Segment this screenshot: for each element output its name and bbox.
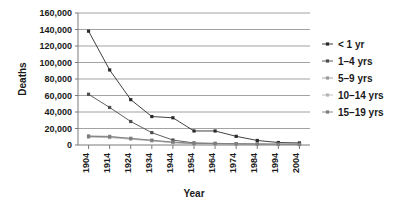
data-point-marker bbox=[87, 93, 90, 96]
y-axis-title: Deaths bbox=[17, 62, 28, 96]
data-point-marker bbox=[213, 142, 216, 145]
data-point-marker bbox=[108, 68, 111, 71]
data-point-marker bbox=[235, 142, 238, 145]
data-point-marker bbox=[87, 135, 90, 138]
data-point-marker bbox=[150, 115, 153, 118]
data-point-marker bbox=[213, 129, 216, 132]
y-tick-label: 40,000 bbox=[44, 107, 72, 117]
data-point-marker bbox=[171, 116, 174, 119]
x-axis-title: Year bbox=[183, 188, 204, 199]
legend-label: 10–14 yrs bbox=[338, 90, 384, 101]
y-tick-label: 120,000 bbox=[39, 41, 72, 51]
data-point-marker bbox=[192, 129, 195, 132]
data-point-marker bbox=[192, 142, 195, 145]
legend-marker bbox=[326, 42, 329, 45]
line-chart: 020,00040,00060,00080,000100,000120,0001… bbox=[0, 0, 407, 204]
legend-marker bbox=[326, 76, 329, 79]
x-tick-label: 1914 bbox=[102, 153, 112, 173]
x-tick-label: 1994 bbox=[270, 153, 280, 173]
legend-marker bbox=[326, 93, 329, 96]
x-axis: 1904191419241934194419541964197419841994… bbox=[81, 145, 302, 173]
y-tick-label: 140,000 bbox=[39, 25, 72, 35]
data-point-marker bbox=[129, 137, 132, 140]
legend-item-2[interactable]: 1–4 yrs bbox=[322, 56, 373, 67]
x-tick-label: 1964 bbox=[207, 153, 217, 173]
y-tick-label: 100,000 bbox=[39, 58, 72, 68]
x-tick-label: 1974 bbox=[228, 153, 238, 173]
legend-marker bbox=[326, 59, 329, 62]
legend-marker bbox=[326, 110, 329, 113]
x-tick-label: 1954 bbox=[186, 153, 196, 173]
data-point-marker bbox=[256, 143, 259, 146]
series-1 bbox=[87, 30, 301, 145]
legend-label: < 1 yr bbox=[338, 39, 365, 50]
data-point-marker bbox=[298, 143, 301, 146]
data-point-marker bbox=[256, 139, 259, 142]
series-line bbox=[89, 31, 300, 143]
legend-label: 5–9 yrs bbox=[338, 73, 373, 84]
data-point-marker bbox=[235, 135, 238, 138]
legend-item-1[interactable]: < 1 yr bbox=[322, 39, 365, 50]
y-tick-label: 60,000 bbox=[44, 91, 72, 101]
series-line bbox=[89, 94, 300, 144]
y-tick-label: 20,000 bbox=[44, 124, 72, 134]
data-point-marker bbox=[129, 98, 132, 101]
data-point-marker bbox=[108, 135, 111, 138]
x-tick-label: 1984 bbox=[249, 153, 259, 173]
chart-canvas: 020,00040,00060,00080,000100,000120,0001… bbox=[0, 0, 407, 204]
x-tick-label: 1904 bbox=[81, 153, 91, 173]
legend-item-4[interactable]: 10–14 yrs bbox=[322, 90, 384, 101]
data-point-marker bbox=[87, 30, 90, 33]
legend-label: 15–19 yrs bbox=[338, 107, 384, 118]
data-point-marker bbox=[150, 139, 153, 142]
gridlines: 020,00040,00060,00080,000100,000120,0001… bbox=[39, 8, 310, 150]
x-tick-label: 1924 bbox=[123, 153, 133, 173]
y-tick-label: 160,000 bbox=[39, 8, 72, 18]
x-tick-label: 1944 bbox=[165, 153, 175, 173]
y-tick-label: 80,000 bbox=[44, 74, 72, 84]
series-5 bbox=[87, 135, 301, 146]
legend-item-3[interactable]: 5–9 yrs bbox=[322, 73, 373, 84]
data-point-marker bbox=[108, 106, 111, 109]
legend: < 1 yr1–4 yrs5–9 yrs10–14 yrs15–19 yrs bbox=[322, 39, 384, 118]
y-tick-label: 0 bbox=[67, 140, 72, 150]
legend-item-5[interactable]: 15–19 yrs bbox=[322, 107, 384, 118]
data-point-marker bbox=[150, 131, 153, 134]
data-point-marker bbox=[129, 120, 132, 123]
data-point-marker bbox=[171, 140, 174, 143]
data-point-marker bbox=[277, 143, 280, 146]
legend-label: 1–4 yrs bbox=[338, 56, 373, 67]
x-tick-label: 2004 bbox=[291, 153, 301, 173]
x-tick-label: 1934 bbox=[144, 153, 154, 173]
